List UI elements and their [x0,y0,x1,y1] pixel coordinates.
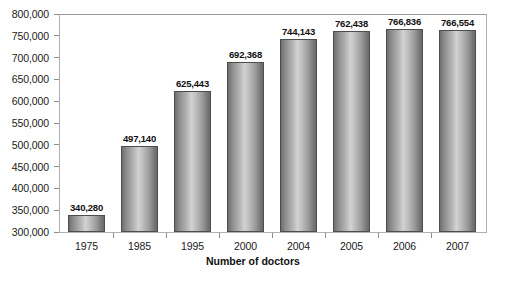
bar-value-label: 497,140 [123,133,156,144]
bar-value-label: 744,143 [282,26,315,37]
bar-group: 625,443 [166,15,219,232]
bar: 340,280 [68,215,105,232]
bar: 625,443 [174,91,211,232]
y-axis-tick-label: 650,000 [12,73,54,85]
bar-group: 766,836 [378,15,431,232]
bar-value-label: 762,438 [335,18,368,29]
y-axis-tick: 300,000 [12,225,59,239]
y-axis-tick-mark [54,57,59,58]
bar-group: 766,554 [431,15,484,232]
bar: 766,836 [386,29,423,232]
y-axis-tick-label: 700,000 [12,52,54,64]
bar: 497,140 [121,146,158,232]
y-axis-tick-mark [54,35,59,36]
bar-group: 692,368 [219,15,272,232]
bar: 692,368 [227,62,264,232]
bar: 744,143 [280,39,317,232]
y-axis-tick-label: 350,000 [12,204,54,216]
bar-group: 497,140 [113,15,166,232]
x-axis: 19751985199520002004200520062007 [60,233,486,255]
bar-value-label: 692,368 [229,49,262,60]
y-axis-tick-mark [54,144,59,145]
y-axis-tick: 750,000 [12,29,59,43]
x-axis-title: Number of doctors [0,255,506,267]
x-axis-tick-label: 2005 [325,240,378,252]
y-axis-tick-label: 450,000 [12,161,54,173]
bar-group: 340,280 [60,15,113,232]
x-axis-tick-mark [166,233,167,238]
y-axis-tick: 650,000 [12,72,59,86]
bar-value-label: 625,443 [176,78,209,89]
bar-value-label: 766,836 [388,16,421,27]
x-axis-tick-mark [378,233,379,238]
y-axis-tick-label: 500,000 [12,139,54,151]
x-axis-tick-label: 2006 [378,240,431,252]
y-axis-tick: 500,000 [12,138,59,152]
x-axis-tick-mark [325,233,326,238]
y-axis-tick-mark [54,188,59,189]
y-axis-tick-mark [54,101,59,102]
x-axis-tick-mark [113,233,114,238]
y-axis-tick-label: 300,000 [12,226,54,238]
y-axis-tick: 700,000 [12,51,59,65]
y-axis-tick-mark [54,14,59,15]
y-axis-tick: 450,000 [12,160,59,174]
x-axis-tick-label: 1975 [60,240,113,252]
bar-value-label: 766,554 [441,17,474,28]
bar-group: 744,143 [272,15,325,232]
y-axis: 800,000750,000700,000650,000600,000550,0… [0,14,59,233]
y-axis-tick-label: 800,000 [12,8,54,20]
y-axis-tick-mark [54,79,59,80]
x-axis-tick-label: 2007 [431,240,484,252]
bar: 766,554 [439,30,476,232]
x-axis-tick-mark [272,233,273,238]
y-axis-tick-label: 550,000 [12,117,54,129]
y-axis-tick-mark [54,210,59,211]
y-axis-tick-mark [54,166,59,167]
y-axis-tick-mark [54,123,59,124]
x-axis-tick-label: 2000 [219,240,272,252]
y-axis-tick: 600,000 [12,94,59,108]
y-axis-tick: 350,000 [12,203,59,217]
y-axis-tick-mark [54,232,59,233]
x-axis-tick-label: 2004 [272,240,325,252]
bar-group: 762,438 [325,15,378,232]
bar: 762,438 [333,31,370,232]
y-axis-tick-label: 600,000 [12,95,54,107]
bar-value-label: 340,280 [70,202,103,213]
x-axis-tick-mark [431,233,432,238]
x-axis-tick-mark [219,233,220,238]
y-axis-tick-label: 750,000 [12,30,54,42]
x-axis-tick-label: 1995 [166,240,219,252]
y-axis-tick: 550,000 [12,116,59,130]
y-axis-tick: 800,000 [12,7,59,21]
y-axis-tick: 400,000 [12,181,59,195]
x-axis-tick-label: 1985 [113,240,166,252]
y-axis-tick-label: 400,000 [12,182,54,194]
bar-chart: 800,000750,000700,000650,000600,000550,0… [0,0,506,288]
bars-layer: 340,280497,140625,443692,368744,143762,4… [60,15,486,232]
